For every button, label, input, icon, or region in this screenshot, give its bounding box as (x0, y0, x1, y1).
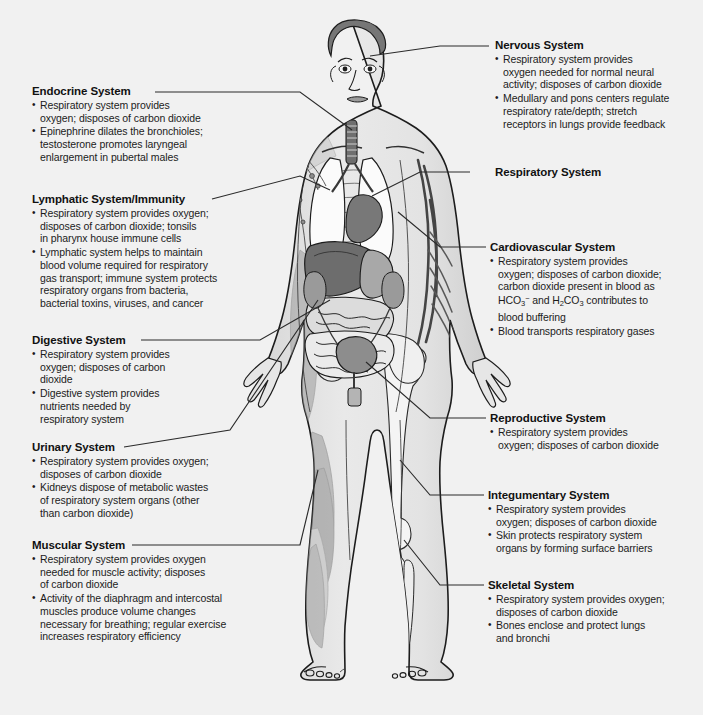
list-item: Respiratory system provides oxygen; disp… (32, 207, 294, 245)
callout-respiratory: Respiratory System (495, 165, 700, 179)
list-item: Respiratory system provides oxygen; disp… (490, 255, 700, 324)
list-item: Bones enclose and protect lungs and bron… (488, 619, 698, 644)
list-item: Respiratory system provides oxygen; disp… (490, 426, 695, 451)
list-item: Activity of the diaphragm and intercosta… (32, 592, 294, 643)
list-item: Skin protects respiratory system organs … (488, 529, 698, 554)
callout-cardiovascular: Cardiovascular System Respiratory system… (490, 240, 700, 338)
callout-title-muscular: Muscular System (32, 538, 294, 552)
list-item: Respiratory system provides oxygen; disp… (32, 348, 262, 386)
callout-skeletal: Skeletal System Respiratory system provi… (488, 578, 698, 646)
list-item: Digestive system provides nutrients need… (32, 387, 262, 425)
callout-bullets-reproductive: Respiratory system provides oxygen; disp… (490, 426, 695, 451)
callout-muscular: Muscular System Respiratory system provi… (32, 538, 294, 644)
callout-reproductive: Reproductive System Respiratory system p… (490, 411, 695, 452)
callout-bullets-urinary: Respiratory system provides oxygen; disp… (32, 455, 282, 520)
callout-bullets-lymphatic: Respiratory system provides oxygen; disp… (32, 207, 294, 310)
list-item: Epinephrine dilates the bronchioles; tes… (32, 125, 282, 163)
callout-nervous: Nervous System Respiratory system provid… (495, 38, 700, 131)
leader-nervous (370, 46, 489, 56)
list-item: Respiratory system provides oxygen neede… (32, 553, 294, 591)
callout-bullets-cardiovascular: Respiratory system provides oxygen; disp… (490, 255, 700, 337)
list-item: Respiratory system provides oxygen; disp… (488, 503, 698, 528)
callout-title-integumentary: Integumentary System (488, 488, 698, 502)
callout-title-reproductive: Reproductive System (490, 411, 695, 425)
list-item: Respiratory system provides oxygen neede… (495, 53, 700, 91)
callout-bullets-endocrine: Respiratory system provides oxygen; disp… (32, 99, 282, 164)
callout-bullets-digestive: Respiratory system provides oxygen; disp… (32, 348, 262, 425)
callout-endocrine: Endocrine System Respiratory system prov… (32, 84, 282, 165)
callout-title-urinary: Urinary System (32, 440, 282, 454)
chemical-formula-line: HCO3− and H2CO3 contributes to (498, 293, 700, 311)
list-item: Blood transports respiratory gases (490, 325, 700, 338)
callout-title-skeletal: Skeletal System (488, 578, 698, 592)
callout-title-lymphatic: Lymphatic System/Immunity (32, 192, 294, 206)
callout-urinary: Urinary System Respiratory system provid… (32, 440, 282, 521)
callout-title-cardiovascular: Cardiovascular System (490, 240, 700, 254)
callout-title-endocrine: Endocrine System (32, 84, 282, 98)
callout-title-digestive: Digestive System (32, 333, 262, 347)
list-item: Respiratory system provides oxygen; disp… (488, 593, 698, 618)
callout-lymphatic: Lymphatic System/Immunity Respiratory sy… (32, 192, 294, 311)
callout-bullets-nervous: Respiratory system provides oxygen neede… (495, 53, 700, 130)
callout-title-nervous: Nervous System (495, 38, 700, 52)
callout-bullets-skeletal: Respiratory system provides oxygen; disp… (488, 593, 698, 645)
list-item: Respiratory system provides oxygen; disp… (32, 99, 282, 124)
list-item: Lymphatic system helps to maintain blood… (32, 246, 294, 310)
callout-bullets-integumentary: Respiratory system provides oxygen; disp… (488, 503, 698, 555)
list-item: Medullary and pons centers regulate resp… (495, 92, 700, 130)
list-item: Kidneys dispose of metabolic wastes of r… (32, 481, 282, 519)
diagram-page: Endocrine System Respiratory system prov… (0, 0, 703, 715)
callout-bullets-muscular: Respiratory system provides oxygen neede… (32, 553, 294, 643)
callout-digestive: Digestive System Respiratory system prov… (32, 333, 262, 426)
list-item: Respiratory system provides oxygen; disp… (32, 455, 282, 480)
callout-title-respiratory: Respiratory System (495, 165, 700, 179)
callout-integumentary: Integumentary System Respiratory system … (488, 488, 698, 556)
